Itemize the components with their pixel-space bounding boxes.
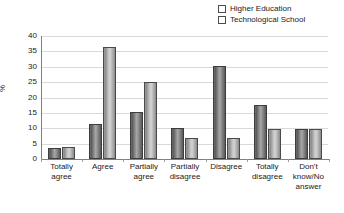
x-axis-tick-label: Partially agree bbox=[123, 162, 164, 192]
bar-technological-school[interactable] bbox=[227, 138, 240, 159]
bar-higher-education[interactable] bbox=[130, 112, 143, 159]
bar-group bbox=[288, 36, 329, 159]
x-axis-tick-mark bbox=[247, 159, 248, 162]
bar-technological-school[interactable] bbox=[144, 82, 157, 159]
x-axis-tick-label: Totally agree bbox=[41, 162, 82, 192]
x-axis-line bbox=[41, 159, 329, 160]
x-axis-tick-label: Don't know/No answer bbox=[288, 162, 329, 192]
y-axis-tick-label: 30 bbox=[16, 63, 37, 71]
x-axis-tick-mark bbox=[329, 159, 330, 162]
x-axis-tick-mark bbox=[82, 159, 83, 162]
x-axis-tick-label: Agree bbox=[82, 162, 123, 192]
bar-chart: Higher Education Technological School % … bbox=[0, 0, 344, 213]
x-axis-tick-mark bbox=[164, 159, 165, 162]
legend-item-technological-school: Technological School bbox=[218, 15, 305, 24]
y-axis-tick-label: 0 bbox=[16, 155, 37, 163]
chart-legend: Higher Education Technological School bbox=[218, 4, 305, 24]
y-axis-tick-label: 40 bbox=[16, 32, 37, 40]
bar-group bbox=[82, 36, 123, 159]
bar-higher-education[interactable] bbox=[254, 105, 267, 159]
bar-group bbox=[247, 36, 288, 159]
bar-technological-school[interactable] bbox=[185, 138, 198, 159]
legend-swatch-icon-technological-school bbox=[218, 16, 226, 24]
legend-item-higher-education: Higher Education bbox=[218, 4, 305, 13]
bar-higher-education[interactable] bbox=[295, 129, 308, 159]
x-axis-tick-labels: Totally agreeAgreePartially agreePartial… bbox=[41, 162, 329, 192]
y-axis-tick-labels: 0510152025303540 bbox=[16, 36, 37, 159]
bar-group bbox=[206, 36, 247, 159]
y-axis-tick-label: 5 bbox=[16, 140, 37, 148]
bar-technological-school[interactable] bbox=[103, 47, 116, 159]
legend-label-higher-education: Higher Education bbox=[230, 4, 291, 13]
bar-groups bbox=[41, 36, 329, 159]
bar-group bbox=[164, 36, 205, 159]
x-axis-tick-label: Disagree bbox=[206, 162, 247, 192]
y-axis-tick-label: 10 bbox=[16, 124, 37, 132]
bar-higher-education[interactable] bbox=[48, 148, 61, 159]
bar-higher-education[interactable] bbox=[89, 124, 102, 159]
bar-technological-school[interactable] bbox=[268, 129, 281, 159]
y-axis-tick-label: 25 bbox=[16, 78, 37, 86]
bar-technological-school[interactable] bbox=[62, 147, 75, 159]
bar-higher-education[interactable] bbox=[213, 66, 226, 159]
legend-label-technological-school: Technological School bbox=[230, 15, 305, 24]
x-axis-tick-mark bbox=[41, 159, 42, 162]
bar-technological-school[interactable] bbox=[309, 129, 322, 159]
legend-swatch-icon-higher-education bbox=[218, 5, 226, 13]
x-axis-tick-label: Totally disagree bbox=[247, 162, 288, 192]
y-axis-title: % bbox=[0, 85, 7, 92]
x-axis-tick-mark bbox=[288, 159, 289, 162]
bar-higher-education[interactable] bbox=[171, 128, 184, 159]
bar-group bbox=[123, 36, 164, 159]
x-axis-tick-mark bbox=[123, 159, 124, 162]
x-axis-tick-mark bbox=[206, 159, 207, 162]
y-axis-tick-label: 15 bbox=[16, 109, 37, 117]
y-axis-tick-label: 20 bbox=[16, 94, 37, 102]
bar-group bbox=[41, 36, 82, 159]
x-axis-tick-label: Partially disagree bbox=[164, 162, 205, 192]
y-axis-tick-label: 35 bbox=[16, 47, 37, 55]
